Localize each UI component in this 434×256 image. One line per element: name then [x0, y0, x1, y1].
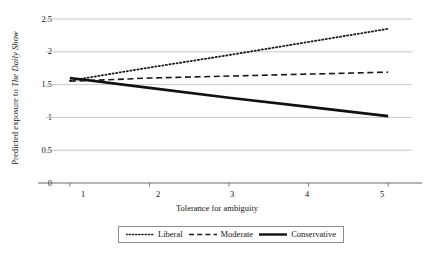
chart-figure: Predicted exposure to The Daily Show 2.5… [0, 0, 434, 256]
series-lines [70, 29, 388, 116]
legend: Liberal Moderate Conservative [118, 226, 344, 243]
plot-area [0, 0, 434, 256]
legend-label-conservative: Conservative [291, 230, 336, 239]
legend-item-moderate: Moderate [189, 230, 254, 239]
legend-label-moderate: Moderate [221, 230, 254, 239]
legend-swatch-dotted-icon [126, 230, 154, 239]
legend-swatch-dashed-icon [189, 230, 217, 239]
legend-swatch-solid-icon [259, 230, 287, 239]
legend-item-conservative: Conservative [259, 230, 336, 239]
legend-label-liberal: Liberal [158, 230, 183, 239]
gridlines [46, 19, 412, 150]
legend-item-liberal: Liberal [126, 230, 183, 239]
